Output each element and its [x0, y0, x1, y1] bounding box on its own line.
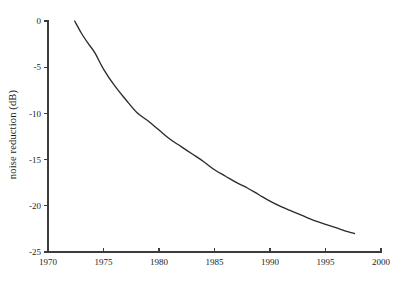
y-tick-label: -10	[29, 109, 41, 119]
x-axis-ticks: 1970197519801985199019952000	[39, 248, 391, 267]
x-tick-label: 1970	[39, 257, 58, 267]
y-tick-label: -15	[29, 155, 41, 165]
data-series-line	[75, 21, 355, 234]
chart-figure: 0-5-10-15-20-25 197019751980198519901995…	[0, 0, 400, 283]
x-tick-label: 1985	[206, 257, 225, 267]
y-tick-label: -5	[34, 62, 42, 72]
y-tick-label: -20	[29, 201, 41, 211]
chart-axes	[48, 20, 382, 252]
y-axis-label: noise reduction (dB)	[7, 70, 18, 200]
x-tick-label: 1995	[317, 257, 336, 267]
x-tick-label: 1980	[150, 257, 169, 267]
x-tick-label: 1990	[261, 257, 280, 267]
x-tick-label: 1975	[95, 257, 114, 267]
line-chart-plot: 0-5-10-15-20-25 197019751980198519901995…	[0, 0, 400, 283]
x-tick-label: 2000	[372, 257, 391, 267]
y-axis-ticks: 0-5-10-15-20-25	[29, 16, 48, 257]
y-tick-label: 0	[37, 16, 42, 26]
y-tick-label: -25	[29, 247, 41, 257]
